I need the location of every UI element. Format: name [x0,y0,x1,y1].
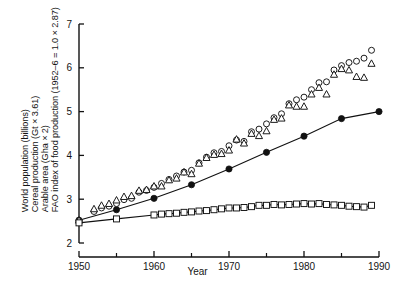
series-open-circle [76,47,375,224]
data-point [331,202,337,208]
data-point [151,195,157,201]
data-point [188,182,194,188]
data-point [120,193,127,199]
data-point [76,220,82,226]
data-point [114,216,120,222]
series-open-triangle [75,60,375,223]
y-axis-tick-label: 6 [66,62,72,73]
y-axis-tick-label: 5 [66,106,72,117]
y-axis-tick-label: 7 [66,19,72,30]
data-point [353,73,360,79]
data-point [369,202,375,208]
data-point [151,212,157,218]
data-point [368,60,375,66]
data-point [323,91,330,97]
y-axis-label-world-population: World population (billions) [21,109,30,212]
data-point [324,201,330,207]
data-point [301,133,307,139]
data-point [361,55,367,61]
figure-container: World population (billions) Cereal produ… [0,0,395,285]
data-point [90,205,97,211]
data-point [256,202,262,208]
data-point [105,200,112,206]
data-point [301,201,307,207]
data-point [279,202,285,208]
data-point [346,203,352,209]
data-point [294,201,300,207]
data-point [361,204,367,210]
data-point [286,201,292,207]
data-point [301,94,307,100]
data-point [293,103,300,109]
data-point [189,209,195,215]
data-point [346,60,352,66]
data-point [113,207,119,213]
x-axis-label: Year [0,266,395,277]
data-point [234,205,240,211]
data-point [219,206,225,212]
data-point [309,201,315,207]
data-point [128,192,135,198]
data-point [159,211,165,217]
data-point [263,127,270,133]
y-axis-title-stack: World population (billions) Cereal produ… [14,0,66,250]
data-point [98,202,105,208]
y-axis-label-cereal-production: Cereal production (Gt × 3.61) [31,96,40,212]
data-point [300,103,307,109]
data-point [174,210,180,216]
data-point [249,204,255,210]
data-point [338,116,344,122]
y-axis-tick-label: 3 [66,194,72,205]
data-point [264,121,270,127]
data-point [255,132,262,138]
data-point [181,209,187,215]
data-point [324,79,330,85]
data-point [376,109,382,115]
data-point [196,208,202,214]
y-axis-label-fao-index: FAO index of food production (1952–6 = 1… [51,7,60,212]
data-point [271,201,277,207]
data-point [316,201,322,207]
data-point [226,166,232,172]
data-point [345,66,352,72]
y-axis-tick-label: 2 [66,238,72,249]
data-point [369,47,375,53]
data-point [339,202,345,208]
y-axis-label-arable-area: Arable area (Gha × 2) [41,125,50,212]
y-axis-tick-label: 4 [66,150,72,161]
data-point [226,205,232,211]
data-point [354,58,360,64]
data-point [354,204,360,210]
data-point [360,74,367,80]
data-point [241,205,247,211]
data-point [204,208,210,214]
data-point [263,149,269,155]
data-point [211,207,217,213]
series-open-square [76,201,375,226]
data-point [113,197,120,203]
data-point [166,211,172,217]
data-point [264,202,270,208]
